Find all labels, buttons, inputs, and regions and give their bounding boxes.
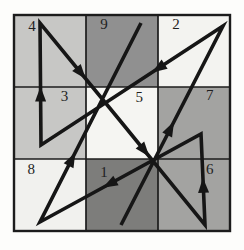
cell-number-6: 6 <box>206 161 214 177</box>
grid-cell-7 <box>158 87 230 159</box>
figure-page: 492357816 <box>0 0 244 250</box>
magic-square-figure: 492357816 <box>0 0 244 250</box>
cell-number-9: 9 <box>100 16 108 32</box>
cell-number-4: 4 <box>28 18 36 34</box>
cell-number-1: 1 <box>100 164 108 180</box>
grid-cell-6 <box>158 159 230 231</box>
grid-cell-4 <box>14 15 86 87</box>
cell-number-7: 7 <box>206 87 214 103</box>
magic-square-svg: 492357816 <box>0 0 244 250</box>
grid-cell-8 <box>14 159 86 231</box>
cell-number-5: 5 <box>136 89 144 105</box>
grid-cell-2 <box>158 15 230 87</box>
cell-number-3: 3 <box>61 88 69 104</box>
cell-number-2: 2 <box>172 16 180 32</box>
cell-number-8: 8 <box>28 161 36 177</box>
